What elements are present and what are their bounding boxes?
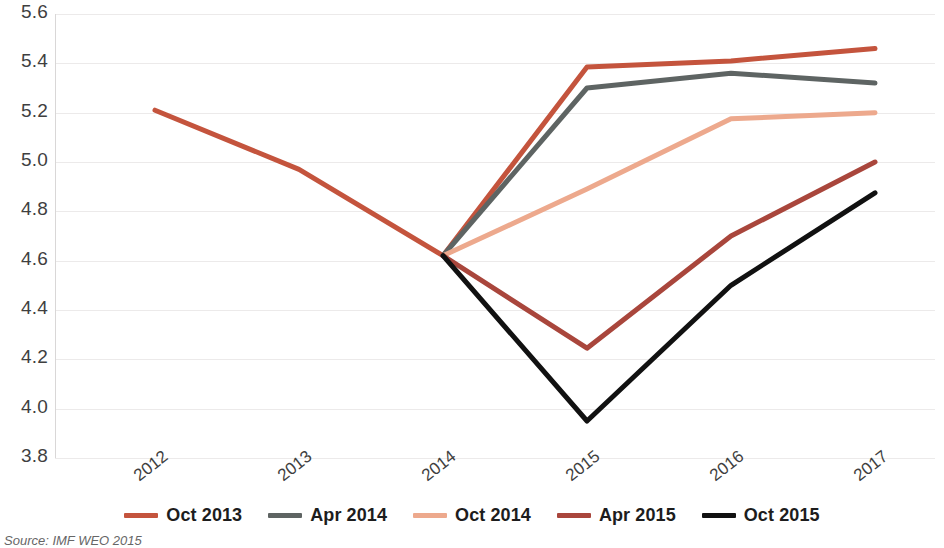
legend-swatch — [268, 513, 302, 518]
legend-item[interactable]: Oct 2015 — [702, 505, 820, 526]
series-line — [443, 162, 875, 348]
chart-legend: Oct 2013Apr 2014Oct 2014Apr 2015Oct 2015 — [0, 505, 944, 526]
legend-label: Oct 2013 — [166, 505, 242, 526]
legend-swatch — [557, 513, 591, 518]
legend-label: Oct 2015 — [744, 505, 820, 526]
legend-item[interactable]: Apr 2014 — [268, 505, 387, 526]
source-note: Source: IMF WEO 2015 — [4, 533, 142, 548]
legend-swatch — [413, 513, 447, 518]
legend-label: Apr 2015 — [599, 505, 676, 526]
legend-swatch — [124, 513, 158, 518]
legend-item[interactable]: Oct 2014 — [413, 505, 531, 526]
legend-label: Apr 2014 — [310, 505, 387, 526]
legend-label: Oct 2014 — [455, 505, 531, 526]
legend-swatch — [702, 513, 736, 518]
legend-item[interactable]: Oct 2013 — [124, 505, 242, 526]
legend-item[interactable]: Apr 2015 — [557, 505, 676, 526]
